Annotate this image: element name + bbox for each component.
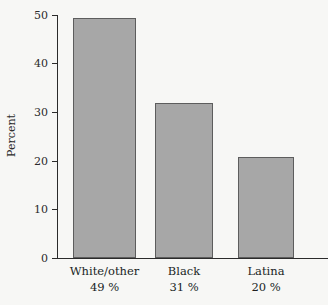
bar [238,157,294,258]
x-axis-category-name: Latina [206,264,326,280]
x-axis-category-percent: 20 % [206,280,326,296]
y-tick-mark-40 [52,63,57,64]
y-tick-label-20: 20 [8,156,48,167]
y-tick-mark-30 [52,112,57,113]
y-tick-label-0: 0 [8,253,48,264]
y-tick-label-30: 30 [8,107,48,118]
x-axis-line [57,258,328,259]
y-tick-label-50: 50 [8,10,48,21]
y-tick-label-10: 10 [8,204,48,215]
x-axis-category-label: Latina 20 % [206,264,326,295]
y-tick-mark-50 [52,15,57,16]
bar [155,103,213,258]
bar-chart: Percent 0 10 20 30 40 50 White/other 49 … [0,0,328,305]
y-tick-label-40: 40 [8,58,48,69]
y-axis-line [57,15,58,259]
y-tick-mark-10 [52,209,57,210]
y-tick-mark-0 [52,258,57,259]
bar [73,18,136,258]
y-tick-mark-20 [52,161,57,162]
